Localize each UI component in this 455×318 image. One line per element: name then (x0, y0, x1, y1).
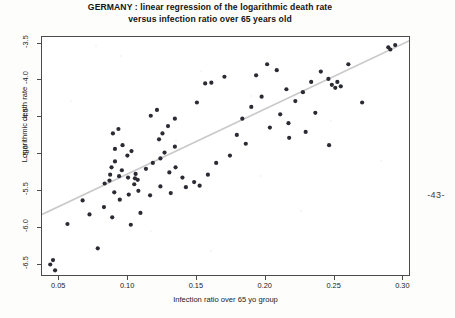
data-point (53, 268, 57, 272)
scan-speckle (95, 45, 97, 47)
scan-speckle (250, 95, 252, 97)
data-point (148, 193, 152, 197)
data-point (107, 178, 111, 182)
data-point (293, 99, 297, 103)
data-point (129, 149, 133, 153)
x-tick-mark (196, 276, 197, 280)
data-point (129, 223, 133, 227)
data-point (209, 81, 213, 85)
data-point (326, 77, 330, 81)
x-tick-mark (265, 276, 266, 280)
data-point (286, 121, 290, 125)
regression-line (42, 40, 410, 214)
data-point (117, 174, 121, 178)
data-point (158, 156, 162, 160)
data-point (157, 137, 161, 141)
x-tick-label: 0.25 (314, 281, 354, 290)
data-point (113, 159, 117, 163)
data-point (149, 114, 153, 118)
data-point (127, 192, 131, 196)
data-point (118, 198, 122, 202)
data-point (260, 95, 264, 99)
data-point (109, 165, 113, 169)
data-point (134, 172, 138, 176)
x-tick-mark (58, 276, 59, 280)
data-point (173, 165, 177, 169)
y-tick-mark (37, 79, 41, 80)
x-tick-label: 0.05 (38, 281, 78, 290)
data-point (65, 222, 69, 226)
data-point (120, 143, 124, 147)
data-point (222, 75, 226, 79)
scan-speckle (200, 70, 202, 72)
chart-title-line2: versus infection ratio over 65 years old (0, 14, 420, 26)
data-point (120, 168, 124, 172)
y-tick-label: -6.5 (2, 258, 32, 267)
data-point (388, 47, 392, 51)
data-point (132, 182, 136, 186)
data-point (48, 262, 52, 266)
scan-speckle (120, 55, 122, 57)
data-point (275, 68, 279, 72)
data-point (333, 86, 337, 90)
data-point (116, 127, 120, 131)
data-point (87, 212, 91, 216)
data-point (249, 105, 253, 109)
y-tick-mark (37, 190, 41, 191)
scan-speckle (70, 100, 72, 102)
y-tick-label: -3.5 (2, 37, 32, 46)
data-point (301, 90, 305, 94)
data-point (327, 143, 331, 147)
data-point (112, 190, 116, 194)
data-point (313, 111, 317, 115)
data-point (138, 211, 142, 215)
plot-area (41, 36, 410, 276)
scatter-plot-canvas (42, 37, 410, 276)
scan-speckle (330, 120, 332, 122)
data-point (166, 124, 170, 128)
data-point (287, 136, 291, 140)
data-point (206, 173, 210, 177)
data-point (144, 167, 148, 171)
data-point (278, 112, 282, 116)
x-tick-mark (127, 276, 128, 280)
x-tick-label: 0.20 (245, 281, 285, 290)
chart-title: GERMANY : linear regression of the logar… (0, 2, 420, 25)
data-point (169, 191, 173, 195)
data-point (111, 131, 115, 135)
data-point (136, 189, 140, 193)
data-point (155, 108, 159, 112)
data-point (330, 83, 334, 87)
data-point (203, 81, 207, 85)
data-point (102, 205, 106, 209)
data-point (393, 43, 397, 47)
y-tick-mark (37, 43, 41, 44)
data-point (96, 246, 100, 250)
y-tick-mark (37, 116, 41, 117)
data-point (180, 176, 184, 180)
data-point (335, 80, 339, 84)
scan-speckle (300, 210, 302, 212)
scan-speckle (260, 175, 262, 177)
x-tick-label: 0.10 (107, 281, 147, 290)
x-axis-title: Infection ratio over 65 yo group (41, 295, 410, 304)
y-tick-mark (37, 264, 41, 265)
data-point (265, 62, 269, 66)
data-point (167, 170, 171, 174)
data-point (309, 80, 313, 84)
data-point (184, 185, 188, 189)
data-point (110, 215, 114, 219)
scan-speckle (210, 250, 212, 252)
data-point (304, 130, 308, 134)
y-tick-mark (37, 153, 41, 154)
scan-speckle (380, 160, 382, 162)
data-point (346, 62, 350, 66)
x-tick-mark (334, 276, 335, 280)
x-tick-mark (402, 276, 403, 280)
data-point (151, 161, 155, 165)
data-point (254, 73, 258, 77)
data-point (136, 178, 140, 182)
data-point (158, 184, 162, 188)
data-point (81, 198, 85, 202)
data-point (240, 117, 244, 121)
